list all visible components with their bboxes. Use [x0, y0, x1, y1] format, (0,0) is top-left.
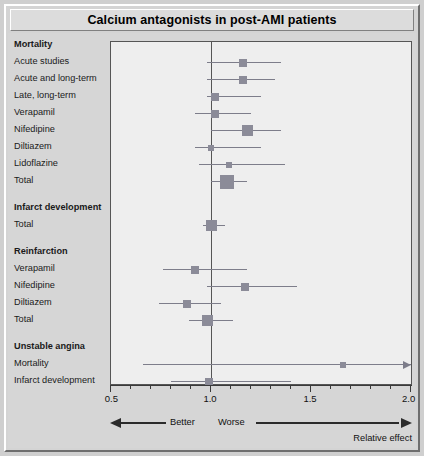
better-direction-line: [121, 422, 166, 424]
effect-estimate-marker: [241, 283, 249, 291]
confidence-interval-line: [163, 269, 247, 270]
effect-estimate-marker: [226, 162, 232, 168]
effect-estimate-marker: [191, 266, 199, 274]
worse-label: Worse: [218, 417, 245, 427]
group-header-reinfarction: Reinfarction: [14, 246, 68, 256]
better-label: Better: [170, 417, 195, 427]
row-label: Infarct development: [14, 375, 95, 385]
effect-estimate-marker: [202, 315, 213, 326]
row-label: Total: [14, 219, 33, 229]
row-label: Late, long-term: [14, 90, 76, 100]
row-label: Nifedipine: [14, 124, 55, 134]
forest-plot-figure: Calcium antagonists in post-AMI patients…: [0, 0, 424, 456]
row-label: Verapamil: [14, 107, 55, 117]
effect-estimate-marker: [211, 110, 219, 118]
better-arrow-icon: [110, 418, 121, 428]
worse-arrow-icon: [401, 418, 412, 428]
x-axis-tick-label: 0.5: [105, 393, 118, 404]
x-axis: 0.51.01.52.0: [110, 385, 412, 401]
row-label: Total: [14, 175, 33, 185]
group-header-mortality: Mortality: [14, 39, 52, 49]
effect-estimate-marker: [242, 125, 253, 136]
x-axis-minor-tick: [330, 385, 331, 389]
x-axis-tick-label: 1.0: [203, 393, 216, 404]
confidence-interval-line: [195, 147, 261, 148]
row-label: Nifedipine: [14, 280, 55, 290]
x-axis-title: Relative effect: [353, 433, 412, 443]
x-axis-major-tick: [410, 385, 411, 392]
confidence-interval-line: [199, 164, 285, 165]
x-axis-tick-label: 2.0: [402, 393, 415, 404]
ci-right-arrow-icon: [403, 361, 411, 369]
x-axis-line: [110, 385, 412, 386]
x-axis-minor-tick: [150, 385, 151, 389]
confidence-interval-line: [143, 364, 411, 365]
row-labels-column: MortalityAcute studiesAcute and long-ter…: [8, 33, 113, 448]
x-axis-minor-tick: [190, 385, 191, 389]
confidence-interval-line: [171, 381, 291, 382]
effect-estimate-marker: [340, 362, 346, 368]
page-title: Calcium antagonists in post-AMI patients: [87, 13, 336, 27]
group-header-unstable-angina: Unstable angina: [14, 341, 85, 351]
x-axis-minor-tick: [270, 385, 271, 389]
x-axis-minor-tick: [130, 385, 131, 389]
figure-panel: MortalityAcute studiesAcute and long-ter…: [8, 33, 416, 448]
x-axis-minor-tick: [290, 385, 291, 389]
effect-estimate-marker: [208, 145, 214, 151]
row-label: Total: [14, 314, 33, 324]
group-header-infarct-development: Infarct development: [14, 202, 101, 212]
row-label: Diltiazem: [14, 141, 52, 151]
effect-estimate-marker: [239, 76, 247, 84]
row-label: Verapamil: [14, 263, 55, 273]
effect-estimate-marker: [211, 93, 219, 101]
confidence-interval-line: [195, 113, 251, 114]
x-axis-major-tick: [310, 385, 311, 392]
row-label: Diltiazem: [14, 297, 52, 307]
x-axis-minor-tick: [350, 385, 351, 389]
x-axis-minor-tick: [370, 385, 371, 389]
x-axis-minor-tick: [230, 385, 231, 389]
direction-bar: Better Worse Relative effect: [110, 415, 412, 449]
row-label: Lidoflazine: [14, 158, 58, 168]
row-label: Acute studies: [14, 56, 69, 66]
effect-estimate-marker: [239, 59, 247, 67]
effect-estimate-marker: [206, 220, 217, 231]
worse-direction-line: [256, 422, 399, 424]
plot-area: [110, 41, 412, 385]
x-axis-minor-tick: [390, 385, 391, 389]
x-axis-minor-tick: [170, 385, 171, 389]
row-label: Mortality: [14, 358, 49, 368]
row-label: Acute and long-term: [14, 73, 97, 83]
confidence-interval-line: [207, 286, 297, 287]
effect-estimate-marker: [220, 175, 234, 189]
x-axis-tick-label: 1.5: [303, 393, 316, 404]
x-axis-major-tick: [110, 385, 111, 392]
x-axis-minor-tick: [250, 385, 251, 389]
x-axis-major-tick: [210, 385, 211, 392]
effect-estimate-marker: [183, 300, 191, 308]
figure-title-bar: Calcium antagonists in post-AMI patients: [10, 9, 414, 31]
